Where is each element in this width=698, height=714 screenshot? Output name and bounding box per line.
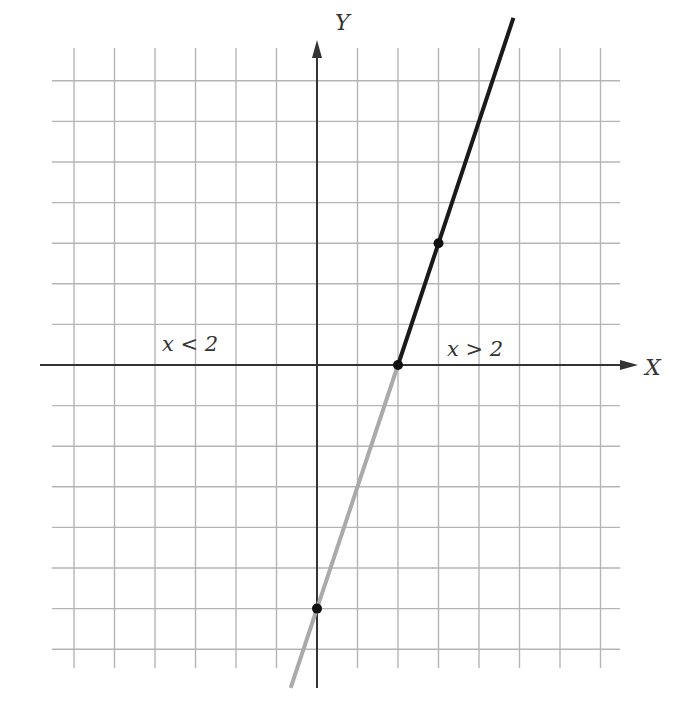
graph-segment-x-gt-2 bbox=[398, 18, 513, 365]
data-point bbox=[434, 238, 444, 248]
x-axis-arrow-icon bbox=[620, 360, 638, 370]
right-region-label: x > 2 bbox=[447, 337, 503, 361]
x-axis-label: X bbox=[645, 355, 661, 380]
y-axis-arrow-icon bbox=[312, 40, 322, 58]
axes bbox=[40, 40, 638, 688]
data-point bbox=[393, 360, 403, 370]
grid-lines bbox=[52, 48, 620, 668]
y-axis-label: Y bbox=[335, 10, 350, 35]
graph-segment-x-lt-2 bbox=[291, 365, 398, 688]
left-region-label: x < 2 bbox=[162, 332, 218, 356]
coordinate-plot bbox=[0, 0, 698, 714]
data-point bbox=[312, 604, 322, 614]
